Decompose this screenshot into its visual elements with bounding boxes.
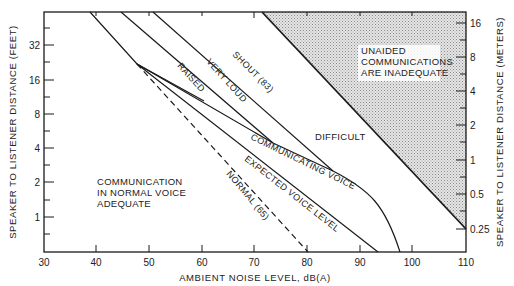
y-left-ticks [44,28,54,234]
svg-text:ADEQUATE: ADEQUATE [97,198,151,209]
svg-text:IN NORMAL VOICE: IN NORMAL VOICE [97,187,186,198]
svg-text:2: 2 [34,177,40,188]
svg-text:70: 70 [248,257,260,268]
svg-text:50: 50 [143,257,155,268]
svg-text:4: 4 [34,143,40,154]
svg-text:COMMUNICATIONS: COMMUNICATIONS [361,56,453,67]
svg-text:4: 4 [470,86,476,97]
svg-text:40: 40 [90,257,102,268]
svg-text:8: 8 [470,52,476,63]
difficult-region-label: DIFFICULT [315,131,366,142]
svg-text:1: 1 [470,155,476,166]
svg-text:16: 16 [470,18,482,29]
svg-text:60: 60 [196,257,208,268]
svg-text:16: 16 [29,75,41,86]
y-axis-right-title: SPEAKER TO LISTENER DISTANCE (METERS) [494,17,505,247]
x-axis-tick-labels: 30 40 50 60 70 80 90 100 110 [38,257,474,268]
y-right-tick-labels: 0.25 0.5 1 2 4 8 16 [470,18,490,235]
svg-text:1: 1 [34,212,40,223]
svg-text:UNAIDED: UNAIDED [361,45,406,56]
x-axis-title: AMBIENT NOISE LEVEL, dB(A) [179,272,331,283]
x-axis-ticks [96,245,412,252]
normal-region-label: COMMUNICATION IN NORMAL VOICE ADEQUATE [97,176,186,209]
svg-text:0.25: 0.25 [470,224,490,235]
curve-normal [137,64,308,252]
svg-text:30: 30 [38,257,50,268]
svg-text:COMMUNICATION: COMMUNICATION [97,176,183,187]
svg-text:ARE INADEQUATE: ARE INADEQUATE [361,67,448,78]
svg-text:100: 100 [404,257,421,268]
svg-text:0.5: 0.5 [470,189,484,200]
y-left-tick-labels: 1 2 4 8 16 32 [29,40,41,223]
chart: 30 40 50 60 70 80 90 100 110 AMBIENT NOI… [0,0,514,286]
svg-text:80: 80 [301,257,313,268]
curve-raised [90,12,204,101]
y-axis-left-title: SPEAKER TO LISTENER DISTANCE (FEET) [7,25,18,239]
svg-text:110: 110 [458,257,474,268]
svg-text:8: 8 [34,109,40,120]
inadequate-region-label: UNAIDED COMMUNICATIONS ARE INADEQUATE [358,45,453,81]
svg-text:2: 2 [470,120,476,131]
svg-text:90: 90 [354,257,366,268]
svg-text:32: 32 [29,40,41,51]
